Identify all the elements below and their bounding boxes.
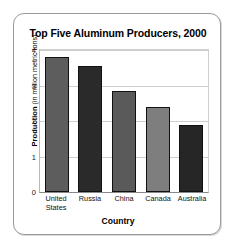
y-axis-title: Production (in million metric tons)	[30, 21, 39, 161]
x-axis-tick-label-line: China	[107, 195, 141, 204]
y-axis-tick-label: 4	[32, 46, 36, 55]
bar-slot	[174, 50, 208, 192]
x-axis-tick-label: Australia	[175, 195, 209, 212]
y-axis-tick-label: 2	[32, 117, 36, 126]
bar-slot	[107, 50, 141, 192]
bar	[78, 66, 102, 192]
x-axis-title: Country	[14, 216, 222, 226]
bar	[146, 107, 170, 192]
y-axis-title-bold: Production	[30, 106, 39, 146]
x-axis-tick-label: China	[107, 195, 141, 212]
bar	[112, 91, 136, 192]
x-axis-tick-label-line: Russia	[73, 195, 107, 204]
y-axis-tick-label: 1	[32, 152, 36, 161]
x-axis-tick-label-line: Canada	[141, 195, 175, 204]
bar	[179, 125, 203, 192]
x-axis-tick-labels: UnitedStatesRussiaChinaCanadaAustralia	[39, 195, 209, 212]
bar-slot	[141, 50, 175, 192]
x-axis-tick-label: UnitedStates	[39, 195, 73, 212]
bar-slot	[40, 50, 74, 192]
plot-area: 01234	[39, 49, 209, 193]
bar-slot	[74, 50, 108, 192]
x-axis-tick-label: Russia	[73, 195, 107, 212]
x-axis-tick-label-line: Australia	[175, 195, 209, 204]
x-axis-tick-label: Canada	[141, 195, 175, 212]
x-axis-tick-label-line: States	[39, 204, 73, 213]
bars-layer	[40, 50, 208, 192]
bar	[45, 57, 69, 192]
figure-frame: Top Five Aluminum Producers, 2000 Produc…	[13, 13, 221, 235]
y-axis-tick-label: 3	[32, 81, 36, 90]
y-axis-tick-label: 0	[32, 188, 36, 197]
chart-title: Top Five Aluminum Producers, 2000	[14, 27, 222, 39]
